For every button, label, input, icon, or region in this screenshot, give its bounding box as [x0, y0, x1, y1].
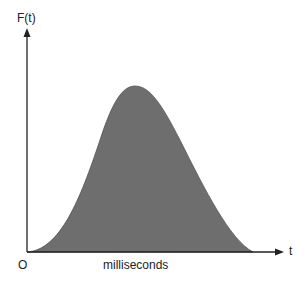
chart-canvas [0, 0, 307, 284]
y-axis-arrow-icon [24, 28, 31, 37]
pulse-area [27, 86, 253, 252]
y-axis-label: F(t) [17, 11, 36, 25]
origin-label: O [18, 258, 27, 272]
x-axis-label: t [289, 244, 292, 258]
x-axis-arrow-icon [275, 249, 284, 256]
x-unit-label: milliseconds [103, 258, 168, 272]
